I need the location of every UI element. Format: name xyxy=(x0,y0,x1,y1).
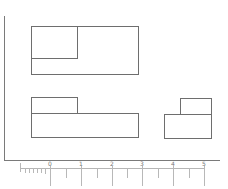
scale-tick xyxy=(173,166,174,186)
scale-tick xyxy=(33,168,34,173)
scale-tick xyxy=(41,168,42,173)
block-mid-left-large xyxy=(31,113,139,138)
scale-tick xyxy=(204,166,205,186)
scale-tick xyxy=(37,168,38,173)
block-right-large xyxy=(164,114,212,139)
scale-tick xyxy=(20,163,21,172)
scale-tick xyxy=(45,168,46,174)
scale-tick xyxy=(50,166,51,186)
block-top-inner xyxy=(31,26,78,59)
scale-tick xyxy=(25,168,26,173)
scale-tick xyxy=(189,168,190,178)
scale-tick xyxy=(112,166,113,186)
scale-label: 4 xyxy=(171,160,175,167)
scale-tick xyxy=(29,168,30,173)
scale-label: 0 xyxy=(48,160,52,167)
block-mid-left-small xyxy=(31,97,78,114)
scale-tick xyxy=(97,168,98,178)
scale-tick xyxy=(158,168,159,178)
scale-tick xyxy=(127,168,128,178)
scale-tick xyxy=(81,166,82,186)
vertical-axis xyxy=(4,16,5,161)
scale-label: 2 xyxy=(110,160,114,167)
scale-tick xyxy=(66,168,67,178)
scale-label: 3 xyxy=(140,160,144,167)
scale-label: 5 xyxy=(202,160,206,167)
block-right-small xyxy=(180,98,212,115)
scale-label: 1 xyxy=(79,160,83,167)
scale-tick xyxy=(142,166,143,186)
